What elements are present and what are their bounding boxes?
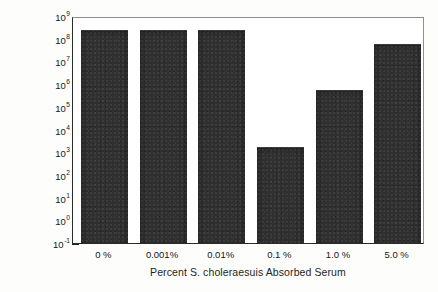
bar [374, 44, 421, 243]
bar [81, 30, 128, 243]
y-axis-tick-label: 109 [28, 12, 70, 23]
y-axis-tick-label: 101 [28, 193, 70, 204]
bar [198, 30, 245, 243]
y-tick-mantissa: 10 [55, 216, 66, 227]
y-tick-mantissa: 10 [55, 12, 66, 23]
y-axis-tick-label: 100 [28, 216, 70, 227]
y-axis-tick-label: 103 [28, 148, 70, 159]
y-tick-exponent: 9 [66, 10, 70, 17]
y-tick-exponent: 8 [66, 32, 70, 39]
x-axis-title: Percent S. choleraesuis Absorbed Serum [72, 266, 424, 278]
y-tick-mantissa: 10 [55, 125, 66, 136]
y-tick-exponent: 2 [66, 169, 70, 176]
y-tick-mantissa: 10 [55, 103, 66, 114]
y-axis-tick-label-group: 10910810710610510410310210110010-1 [28, 0, 70, 292]
bar [140, 30, 187, 243]
y-tick-exponent: 4 [66, 123, 70, 130]
y-tick-mantissa: 10 [55, 80, 66, 91]
x-axis-tick-label: 0 % [95, 248, 111, 262]
y-tick-exponent: 0 [66, 214, 70, 221]
y-axis-tick-label: 107 [28, 57, 70, 68]
y-tick-mantissa: 10 [55, 57, 66, 68]
y-axis-tick-label: 10-1 [28, 239, 70, 250]
y-tick-exponent: 7 [66, 55, 70, 62]
bar [257, 147, 304, 243]
x-axis-tick-label: 1.0 % [326, 248, 350, 262]
x-axis-tick-label: 0.001% [146, 248, 178, 262]
plot-frame [72, 17, 424, 244]
y-axis-major-tick [72, 244, 79, 245]
y-tick-exponent: -1 [64, 237, 70, 244]
y-tick-mantissa: 10 [55, 171, 66, 182]
y-axis-tick-label: 105 [28, 102, 70, 113]
x-axis-tick-label: 5.0 % [385, 248, 409, 262]
y-axis-tick-label: 102 [28, 171, 70, 182]
x-axis-tick-label-group: 0 %0.001%0.01%0.1 %1.0 %5.0 % [72, 248, 424, 264]
y-axis-tick-label: 108 [28, 34, 70, 45]
y-tick-exponent: 1 [66, 191, 70, 198]
y-axis-tick-label: 106 [28, 80, 70, 91]
x-axis-tick-label: 0.01% [207, 248, 234, 262]
y-tick-mantissa: 10 [55, 35, 66, 46]
y-tick-mantissa: 10 [53, 239, 64, 250]
x-axis-tick-label: 0.1 % [267, 248, 291, 262]
bar-chart-figure: Bacteria/ml 1091081071061051041031021011… [0, 0, 438, 292]
y-tick-exponent: 3 [66, 146, 70, 153]
y-tick-exponent: 6 [66, 78, 70, 85]
y-tick-mantissa: 10 [55, 148, 66, 159]
y-axis-tick-label: 104 [28, 125, 70, 136]
y-tick-mantissa: 10 [55, 193, 66, 204]
bar [316, 90, 363, 243]
plot-area [73, 18, 423, 243]
y-tick-exponent: 5 [66, 100, 70, 107]
